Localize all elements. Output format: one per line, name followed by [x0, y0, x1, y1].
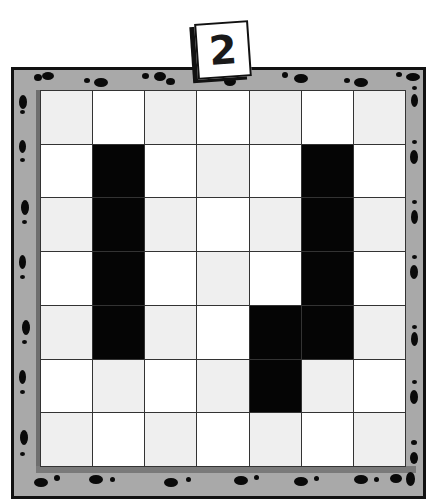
grid-cell[interactable]	[302, 413, 353, 466]
footprint-icon	[390, 474, 402, 483]
grid-cell[interactable]	[302, 252, 353, 305]
footprint-icon	[154, 72, 166, 81]
footprint-icon	[89, 475, 103, 484]
grid-cell[interactable]	[302, 91, 353, 144]
grid-cell[interactable]	[145, 360, 196, 413]
footprint-icon	[19, 95, 27, 109]
grid-cell[interactable]	[93, 360, 144, 413]
grid-cell[interactable]	[41, 145, 92, 198]
grid-cell[interactable]	[197, 413, 248, 466]
grid-cell[interactable]	[354, 198, 405, 251]
footprint-icon	[110, 477, 115, 482]
footprint-icon	[19, 370, 26, 384]
level-number-card: 2	[194, 20, 252, 80]
grid-cell[interactable]	[250, 252, 301, 305]
footprint-icon	[412, 325, 417, 329]
footprint-icon	[412, 200, 417, 204]
footprint-icon	[234, 476, 248, 485]
footprint-icon	[34, 478, 48, 487]
grid-cell[interactable]	[354, 306, 405, 359]
grid-cell[interactable]	[197, 252, 248, 305]
grid-cell[interactable]	[93, 198, 144, 251]
grid-cell[interactable]	[41, 306, 92, 359]
grid-cell[interactable]	[93, 413, 144, 466]
footprint-icon	[411, 94, 418, 107]
footprint-icon	[410, 150, 418, 164]
grid-cell[interactable]	[302, 145, 353, 198]
grid-cell[interactable]	[145, 252, 196, 305]
grid-cell[interactable]	[302, 198, 353, 251]
grid-cell[interactable]	[197, 360, 248, 413]
grid-cell[interactable]	[354, 91, 405, 144]
footprint-icon	[314, 476, 319, 481]
footprint-icon	[344, 78, 350, 83]
footprint-icon	[94, 78, 108, 87]
grid-cell[interactable]	[250, 306, 301, 359]
grid-cell[interactable]	[250, 145, 301, 198]
grid-cell[interactable]	[354, 252, 405, 305]
footprint-icon	[20, 452, 25, 456]
footprint-icon	[411, 210, 418, 224]
footprint-icon	[42, 72, 54, 80]
footprint-icon	[294, 74, 308, 83]
grid-cell[interactable]	[250, 413, 301, 466]
grid-cell[interactable]	[145, 306, 196, 359]
grid-cell[interactable]	[354, 360, 405, 413]
grid-cell[interactable]	[41, 252, 92, 305]
footprint-icon	[412, 86, 417, 90]
grid-cell[interactable]	[197, 91, 248, 144]
footprint-icon	[20, 430, 28, 445]
footprint-icon	[354, 78, 368, 87]
footprint-icon	[294, 477, 308, 486]
grid-cell[interactable]	[41, 360, 92, 413]
grid-cell[interactable]	[41, 91, 92, 144]
footprint-icon	[22, 220, 27, 224]
footprint-icon	[412, 380, 417, 384]
grid-cell[interactable]	[93, 145, 144, 198]
grid-cell[interactable]	[250, 360, 301, 413]
grid-cell[interactable]	[145, 413, 196, 466]
grid-cell[interactable]	[41, 413, 92, 466]
footprint-icon	[20, 275, 25, 279]
grid-cell[interactable]	[197, 306, 248, 359]
footprint-icon	[412, 140, 417, 144]
grid-cell[interactable]	[41, 198, 92, 251]
grid-cell[interactable]	[250, 198, 301, 251]
grid-cell[interactable]	[145, 145, 196, 198]
footprint-icon	[142, 73, 149, 79]
grid-cell[interactable]	[302, 306, 353, 359]
footprint-icon	[164, 478, 178, 487]
footprint-icon	[19, 140, 26, 153]
footprint-icon	[354, 475, 368, 484]
footprint-icon	[84, 78, 90, 83]
footprint-icon	[411, 332, 418, 346]
footprint-icon	[20, 158, 25, 162]
footprint-icon	[410, 265, 418, 279]
grid-cell[interactable]	[354, 145, 405, 198]
footprint-icon	[20, 390, 25, 394]
footprint-icon	[22, 320, 30, 335]
footprint-icon	[186, 477, 191, 482]
grid-cell[interactable]	[93, 306, 144, 359]
grid-cell[interactable]	[93, 91, 144, 144]
board-bevel-bottom	[36, 466, 416, 473]
footprint-icon	[410, 390, 418, 404]
grid-cell[interactable]	[197, 145, 248, 198]
footprint-icon	[166, 78, 175, 85]
puzzle-grid	[40, 90, 406, 467]
grid-cell[interactable]	[145, 91, 196, 144]
grid-cell[interactable]	[354, 413, 405, 466]
grid-cell[interactable]	[250, 91, 301, 144]
footprint-icon	[282, 72, 288, 78]
footprint-icon	[224, 77, 236, 86]
grid-cell[interactable]	[197, 198, 248, 251]
footprint-icon	[22, 340, 27, 344]
footprint-icon	[406, 472, 415, 486]
footprint-icon	[374, 477, 379, 482]
grid-cell[interactable]	[145, 198, 196, 251]
footprint-icon	[406, 73, 420, 81]
grid-cell[interactable]	[302, 360, 353, 413]
footprint-icon	[396, 72, 402, 77]
footprint-icon	[21, 200, 29, 215]
grid-cell[interactable]	[93, 252, 144, 305]
